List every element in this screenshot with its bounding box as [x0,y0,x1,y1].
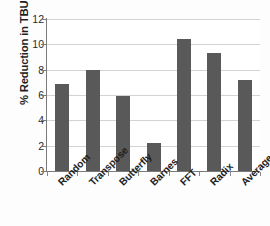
bar-chart-figure: % Reduction in TBUF Overflow 024681012 R… [0,0,270,226]
y-tick-mark [41,171,46,172]
x-tick-mark [108,172,109,176]
y-tick-mark [41,19,46,20]
y-tick-mark [41,95,46,96]
x-tick-mark [47,172,48,176]
x-tick-mark [138,172,139,176]
x-tick-label: FFT [178,167,199,188]
bar [238,80,252,171]
x-tick-mark [230,172,231,176]
y-tick-mark [41,146,46,147]
y-tick-mark [41,44,46,45]
y-tick-mark [41,70,46,71]
bar [55,84,69,171]
x-tick-mark [169,172,170,176]
bar [177,39,191,171]
x-tick-mark [77,172,78,176]
y-tick-mark [41,120,46,121]
x-tick-mark [260,172,261,176]
bar-series [47,19,260,171]
bar [207,53,221,171]
x-axis-tick-labels: RandomTransposeButterflyBarnesFFTRadixAv… [0,171,270,226]
x-tick-mark [199,172,200,176]
